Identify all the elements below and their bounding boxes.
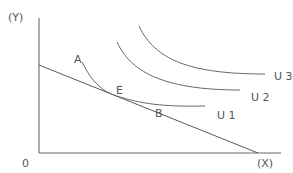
curve-label-u3: U 3 (274, 70, 293, 83)
indifference-curve-u2 (117, 42, 240, 90)
curve-label-u2: U 2 (251, 91, 270, 104)
indifference-curve-u1 (82, 62, 205, 106)
point-label-b: B (155, 107, 163, 120)
indifference-diagram: (Y) (X) 0 A E B U 1 U 2 U 3 (0, 0, 293, 173)
y-axis-label: (Y) (8, 11, 23, 24)
x-axis-label: (X) (257, 157, 273, 170)
origin-label: 0 (22, 157, 29, 170)
point-label-a: A (74, 53, 82, 66)
indifference-curve-u3 (139, 26, 265, 74)
point-label-e: E (116, 84, 123, 97)
curve-label-u1: U 1 (217, 109, 236, 122)
